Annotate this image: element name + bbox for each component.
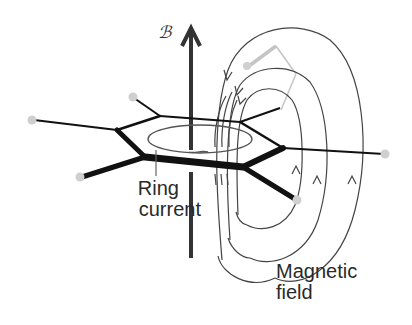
hydrogen-top-left xyxy=(129,93,138,102)
ring-current-ellipse xyxy=(148,125,252,153)
ring-current-label: Ring current xyxy=(121,178,201,220)
magnetic-field-lines xyxy=(215,28,363,282)
hydrogen-bottom-left xyxy=(76,173,85,182)
hydrogen-bottom-right xyxy=(293,196,302,205)
magnetic-field-label-line1: Magnetic xyxy=(276,261,357,282)
hydrogen-atoms xyxy=(28,93,390,205)
ring-current-diagram: ℬ Ring current Magnetic field xyxy=(0,0,412,325)
ring-current-label-line1: Ring xyxy=(121,178,201,199)
faded-hydrogen-back xyxy=(243,46,296,110)
hydrogen-right xyxy=(381,150,390,159)
magnetic-field-label: Magnetic field xyxy=(276,261,357,303)
ring-current-label-line2: current xyxy=(111,199,201,220)
applied-field-arrow xyxy=(182,28,200,150)
field-symbol-label: ℬ xyxy=(158,22,171,42)
hydrogen-left xyxy=(28,116,37,125)
magnetic-field-label-line2: field xyxy=(276,282,357,303)
